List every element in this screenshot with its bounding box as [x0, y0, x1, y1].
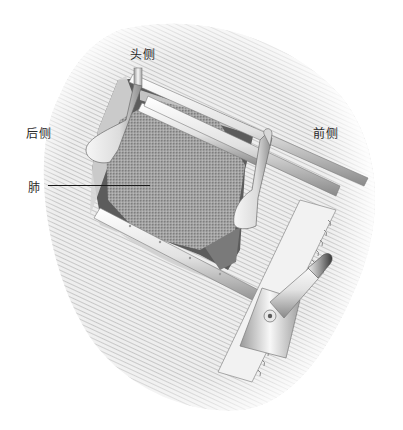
label-posterior: 后侧 [26, 124, 51, 141]
lung-leader-line [48, 185, 150, 186]
surgical-illustration: 头侧 后侧 前侧 肺 [0, 0, 403, 430]
label-lung: 肺 [28, 178, 41, 195]
illustration-canvas [0, 0, 403, 430]
label-cranial: 头侧 [130, 45, 155, 62]
label-anterior: 前侧 [313, 124, 338, 141]
